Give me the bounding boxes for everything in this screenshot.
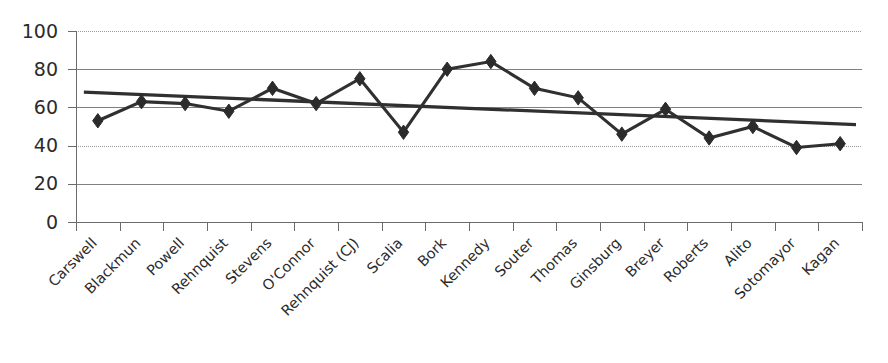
y-tick-label-100: 100 — [22, 20, 58, 42]
y-tick-label-60: 60 — [34, 96, 58, 118]
y-tick-label-0: 0 — [46, 211, 58, 233]
y-tick-label-20: 20 — [34, 172, 58, 194]
line-chart: 020406080100 CarswellBlackmunPowellRehnq… — [0, 0, 888, 363]
y-tick-label-40: 40 — [34, 134, 58, 156]
y-tick-label-80: 80 — [34, 58, 58, 80]
chart-background — [0, 0, 888, 363]
chart-container: 020406080100 CarswellBlackmunPowellRehnq… — [0, 0, 888, 363]
